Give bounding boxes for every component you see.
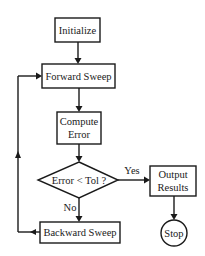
output-results-label-line1: Output bbox=[158, 169, 187, 180]
arrowhead-icon bbox=[15, 151, 21, 158]
edge-output-to-stop bbox=[171, 196, 178, 220]
arrowhead-icon bbox=[171, 214, 178, 220]
forward-sweep-label: Forward Sweep bbox=[45, 71, 111, 82]
edge-loop-back bbox=[15, 73, 42, 236]
stop-label: Stop bbox=[164, 228, 183, 239]
node-backward-sweep: Backward Sweep bbox=[40, 222, 120, 243]
backward-sweep-label: Backward Sweep bbox=[43, 227, 116, 238]
node-decision: Error < Tol ? bbox=[38, 162, 118, 198]
node-forward-sweep: Forward Sweep bbox=[42, 64, 115, 88]
no-label: No bbox=[64, 202, 77, 213]
edge-compute-to-decision bbox=[76, 144, 83, 162]
arrowhead-icon bbox=[76, 216, 83, 222]
arrowhead-icon bbox=[76, 156, 83, 162]
arrowhead-icon bbox=[144, 177, 150, 184]
edge-no: No bbox=[64, 198, 83, 222]
arrowhead-icon bbox=[36, 73, 42, 80]
compute-error-label-line1: Compute bbox=[60, 116, 99, 127]
decision-label: Error < Tol ? bbox=[52, 175, 107, 186]
node-output-results: Output Results bbox=[150, 166, 196, 196]
edge-forward-to-compute bbox=[76, 88, 83, 112]
output-results-label-line2: Results bbox=[158, 182, 189, 193]
arrowhead-icon bbox=[30, 229, 36, 235]
compute-error-label-line2: Error bbox=[68, 129, 91, 140]
node-compute-error: Compute Error bbox=[57, 112, 101, 144]
node-initialize: Initialize bbox=[55, 18, 100, 42]
edge-initialize-to-forward bbox=[75, 42, 82, 64]
yes-label: Yes bbox=[124, 165, 139, 176]
node-stop: Stop bbox=[161, 220, 187, 246]
arrowhead-icon bbox=[75, 58, 82, 64]
flowchart-canvas: Initialize Forward Sweep Compute Error E… bbox=[0, 0, 205, 256]
edge-yes: Yes bbox=[118, 165, 150, 184]
arrowhead-icon bbox=[76, 106, 83, 112]
initialize-label: Initialize bbox=[59, 25, 97, 36]
